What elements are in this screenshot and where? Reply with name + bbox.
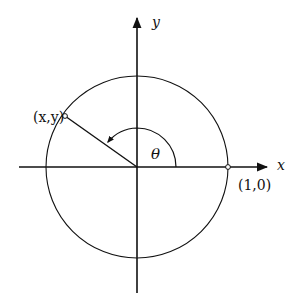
radius-line bbox=[65, 116, 137, 167]
y-axis-label: y bbox=[151, 14, 161, 30]
unit-circle-diagram: y x (x,y) (1,0) θ bbox=[0, 0, 303, 306]
terminal-point-label: (x,y) bbox=[33, 109, 64, 125]
angle-arc bbox=[108, 128, 176, 167]
x-axis-label: x bbox=[277, 157, 285, 173]
initial-point bbox=[226, 165, 231, 170]
initial-point-label: (1,0) bbox=[238, 177, 271, 193]
angle-label: θ bbox=[151, 145, 160, 163]
